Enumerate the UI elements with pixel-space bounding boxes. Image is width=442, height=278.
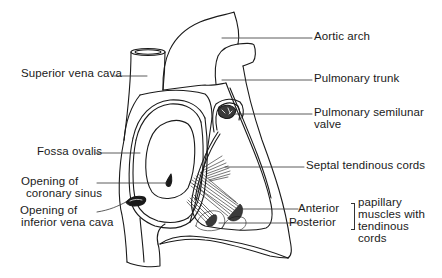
fossa-ovalis-shape bbox=[146, 121, 195, 199]
inferior-vena-cava-opening bbox=[126, 196, 146, 206]
label-coronary-sinus-line1: Opening of bbox=[21, 175, 78, 187]
label-papillary-line1: papillary bbox=[358, 196, 402, 208]
label-coronary-sinus-line2: coronary sinus bbox=[26, 187, 102, 199]
label-anterior: Anterior bbox=[298, 202, 339, 214]
label-ivc-line2: inferior vena cava bbox=[21, 216, 114, 228]
label-ivc-line1: Opening of bbox=[20, 204, 77, 216]
leader-ivc bbox=[97, 202, 126, 212]
label-pulmonary-valve-line1: Pulmonary semilunar bbox=[314, 106, 424, 118]
coronary-sinus-opening bbox=[166, 174, 172, 186]
label-papillary-line3: tendinous bbox=[358, 220, 409, 232]
label-fossa-ovalis: Fossa ovalis bbox=[37, 145, 102, 157]
heart-diagram: Aortic arch Superior vena cava Pulmonary… bbox=[0, 0, 442, 278]
label-pulmonary-valve-line2: valve bbox=[314, 118, 341, 130]
label-papillary-line4: cords bbox=[358, 232, 387, 244]
label-aortic-arch: Aortic arch bbox=[314, 30, 370, 42]
label-pulmonary-trunk: Pulmonary trunk bbox=[314, 72, 399, 84]
label-septal-tendinous-cords: Septal tendinous cords bbox=[306, 159, 425, 171]
papillary-bracket bbox=[351, 203, 355, 230]
label-superior-vena-cava: Superior vena cava bbox=[21, 67, 122, 79]
aortic-arch-shape bbox=[163, 12, 239, 90]
label-papillary-line2: muscles with bbox=[358, 208, 425, 220]
label-posterior: Posterior bbox=[289, 216, 336, 228]
